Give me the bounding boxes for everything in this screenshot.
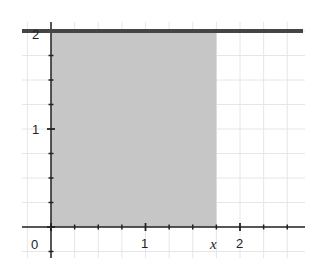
y-tick-label-2: 2: [32, 27, 39, 42]
chart: 0 1 x 2 1 2: [0, 0, 325, 270]
x-variable-label: x: [209, 236, 217, 252]
x-tick-label-1: 1: [141, 236, 148, 251]
x-tick-label-2: 2: [236, 236, 243, 251]
shaded-area: [51, 31, 216, 227]
y-tick-label-1: 1: [32, 122, 39, 137]
origin-label: 0: [31, 237, 38, 252]
